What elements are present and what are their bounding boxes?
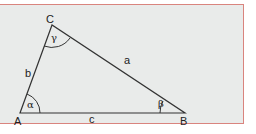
side-label-a: a bbox=[124, 54, 131, 66]
angle-arc-gamma bbox=[44, 38, 70, 47]
angle-label-beta: β bbox=[158, 98, 164, 109]
triangle-diagram: C A B a b c α β γ bbox=[0, 0, 256, 134]
angle-label-alpha: α bbox=[27, 99, 34, 110]
side-label-b: b bbox=[25, 67, 31, 79]
side-label-c: c bbox=[89, 113, 95, 125]
angle-label-gamma: γ bbox=[51, 32, 57, 43]
vertex-label-b: B bbox=[180, 115, 187, 127]
vertex-label-c: C bbox=[46, 13, 54, 25]
vertex-label-a: A bbox=[14, 115, 22, 127]
